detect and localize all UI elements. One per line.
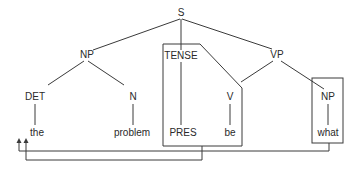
- edge-np-det: [48, 61, 84, 85]
- word-problem: problem: [114, 127, 150, 139]
- arrowhead-what-icon: [17, 138, 22, 143]
- edge-vp-v: [241, 61, 273, 82]
- edge-vp-np: [281, 61, 324, 89]
- node-np-object: NP: [321, 91, 335, 103]
- arrowhead-pres-icon: [24, 138, 29, 143]
- node-vp: VP: [270, 49, 283, 61]
- node-tense: TENSE: [164, 50, 197, 62]
- node-det: DET: [25, 91, 45, 103]
- node-n: N: [129, 91, 136, 103]
- edge-s-np: [93, 19, 180, 50]
- node-v: V: [227, 91, 234, 103]
- word-what: what: [317, 127, 338, 139]
- word-the: the: [30, 127, 44, 139]
- edge-np-n: [88, 61, 124, 85]
- tree-edges: [0, 0, 361, 169]
- node-np-subject: NP: [80, 49, 94, 61]
- word-be: be: [224, 127, 235, 139]
- node-s: S: [178, 7, 185, 19]
- word-pres: PRES: [169, 127, 196, 139]
- syntax-tree-diagram: S NP DET N TENSE VP V NP the problem PRE…: [0, 0, 361, 169]
